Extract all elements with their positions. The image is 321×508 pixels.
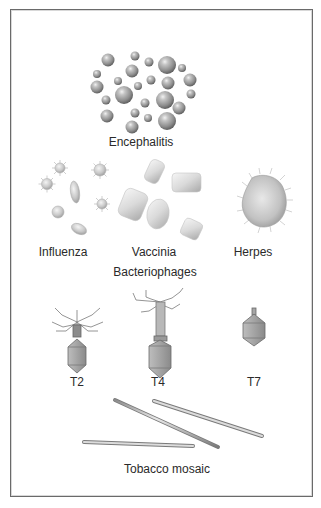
- label-herpes: Herpes: [234, 245, 273, 259]
- label-t4: T4: [151, 375, 165, 389]
- vaccinia-virus-group: [116, 158, 203, 241]
- encephalitis-virus-cluster: [91, 52, 197, 134]
- herpes-virus: [237, 168, 293, 233]
- tobacco-mosaic-virus-rods: [84, 400, 262, 447]
- label-bacteriophages: Bacteriophages: [113, 265, 196, 279]
- label-influenza: Influenza: [39, 245, 88, 259]
- t7-bacteriophage: [243, 308, 265, 346]
- label-t2: T2: [70, 375, 84, 389]
- label-tobacco-mosaic: Tobacco mosaic: [124, 462, 210, 476]
- label-encephalitis: Encephalitis: [109, 135, 174, 149]
- label-vaccinia: Vaccinia: [132, 245, 176, 259]
- t4-bacteriophage: [133, 288, 183, 378]
- influenza-virus-group: [39, 160, 111, 237]
- t2-bacteriophage: [52, 308, 103, 373]
- label-t7: T7: [247, 375, 261, 389]
